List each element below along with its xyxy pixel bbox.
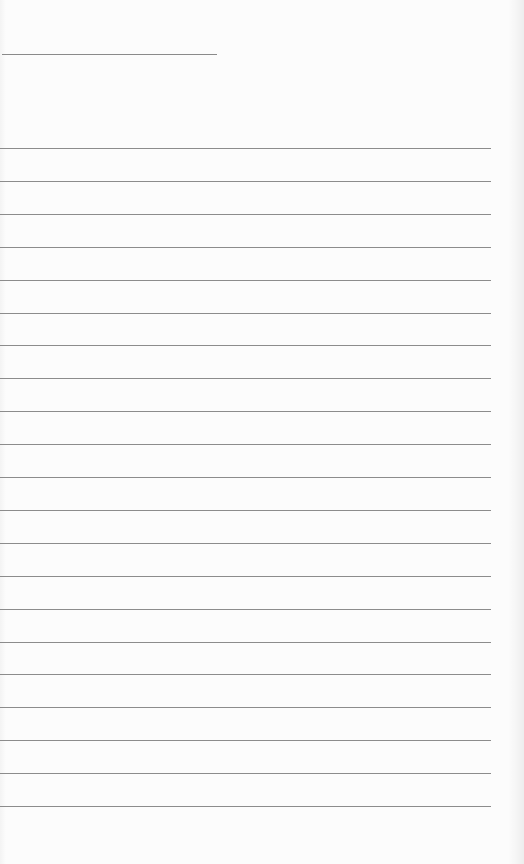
- ruled-line: [0, 477, 491, 478]
- ruled-line: [0, 280, 491, 281]
- ruled-line: [0, 345, 491, 346]
- ruled-line: [0, 148, 491, 149]
- ruled-line: [0, 642, 491, 643]
- ruled-line: [0, 806, 491, 807]
- lined-paper-page: [0, 0, 524, 864]
- ruled-line: [0, 609, 491, 610]
- ruled-line: [0, 576, 491, 577]
- ruled-line: [0, 247, 491, 248]
- ruled-line: [0, 510, 491, 511]
- ruled-line: [0, 411, 491, 412]
- ruled-line: [0, 543, 491, 544]
- ruled-line: [0, 674, 491, 675]
- ruled-lines-area: [0, 0, 524, 864]
- ruled-line: [0, 773, 491, 774]
- ruled-line: [0, 214, 491, 215]
- ruled-line: [0, 444, 491, 445]
- ruled-line: [0, 740, 491, 741]
- ruled-line: [0, 313, 491, 314]
- ruled-line: [0, 181, 491, 182]
- ruled-line: [0, 378, 491, 379]
- ruled-line: [0, 707, 491, 708]
